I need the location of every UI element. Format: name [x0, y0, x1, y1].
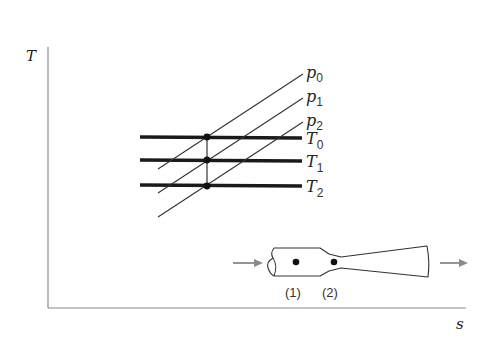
isobar-label-p0: p0	[306, 63, 323, 85]
isobars	[158, 74, 303, 217]
isotherm-t1	[140, 160, 302, 161]
nozzle-inlet-cut	[268, 248, 274, 276]
nozzle-illustration: (1) (2)	[233, 246, 468, 300]
isotherms	[140, 137, 302, 186]
t-axis-label: T	[26, 47, 37, 65]
state-point-0	[204, 134, 211, 141]
isotherm-label-t2: T2	[306, 177, 324, 200]
station-2-dot	[331, 259, 338, 266]
station-2-label: (2)	[322, 285, 338, 300]
outlet-arrow-icon	[440, 259, 468, 267]
isotherm-t2	[140, 185, 302, 186]
s-axis-label: s	[456, 315, 464, 333]
isobar-p0	[158, 74, 303, 169]
isotherm-t0	[140, 137, 302, 138]
state-point-2	[204, 183, 211, 190]
inlet-arrow-icon	[233, 259, 263, 267]
isobar-p1	[158, 98, 303, 193]
isobar-label-p1: p1	[306, 87, 323, 109]
station-1-label: (1)	[285, 285, 301, 300]
ts-diagram: T s p0 p1 p2 T0 T1 T2	[0, 0, 486, 339]
isotherm-label-t1: T1	[306, 152, 324, 175]
station-1-dot	[293, 259, 300, 266]
state-point-1	[204, 157, 211, 164]
